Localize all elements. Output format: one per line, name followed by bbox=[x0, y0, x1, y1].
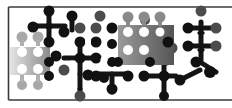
pattern-svg bbox=[0, 0, 232, 108]
molecular-pattern-graphic bbox=[0, 0, 232, 108]
gray-gradient-cluster bbox=[113, 12, 174, 68]
